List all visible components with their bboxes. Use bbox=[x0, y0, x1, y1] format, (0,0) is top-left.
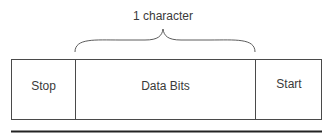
field-stop: Stop bbox=[12, 79, 75, 93]
brace-label: 1 character bbox=[113, 9, 213, 23]
field-data-bits: Data Bits bbox=[76, 79, 255, 93]
brace-1-character bbox=[75, 29, 255, 52]
field-start: Start bbox=[256, 77, 322, 91]
